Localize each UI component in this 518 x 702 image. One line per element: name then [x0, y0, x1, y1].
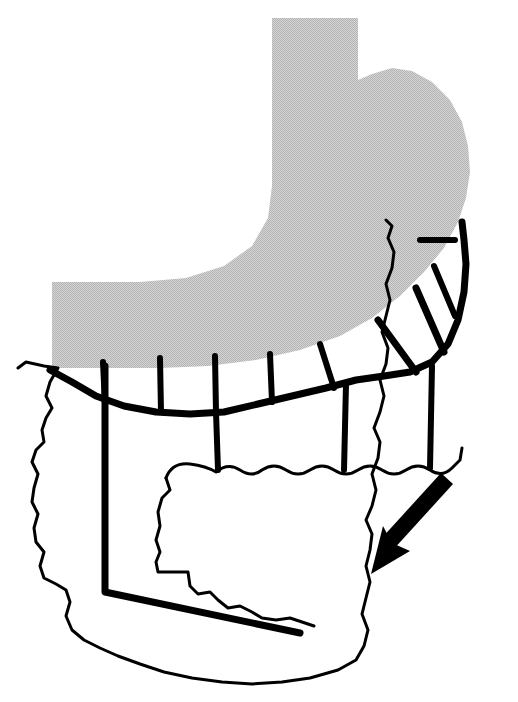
omental-branch-1: [216, 412, 218, 470]
gastric-branch-4: [270, 354, 272, 402]
omental-branch-3: [430, 366, 432, 468]
anatomy-illustration-canvas: [0, 0, 518, 702]
omental-branch-2: [344, 384, 346, 470]
gastric-branch-3: [215, 356, 216, 412]
gastric-branch-2: [160, 358, 161, 412]
anatomy-figure: [0, 0, 518, 702]
